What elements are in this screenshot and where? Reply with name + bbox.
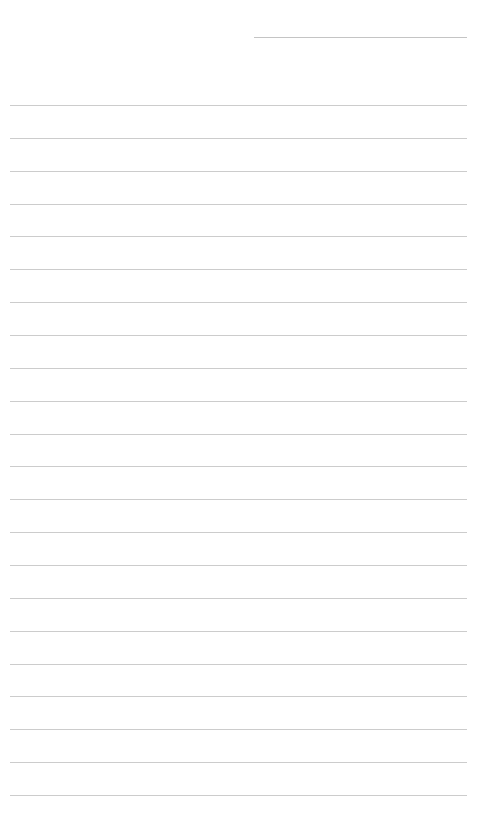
- ruled-line: [10, 171, 467, 172]
- ruled-line: [10, 335, 467, 336]
- ruled-line: [10, 565, 467, 566]
- header-date-line: [254, 37, 467, 38]
- ruled-line: [10, 204, 467, 205]
- ruled-line: [10, 729, 467, 730]
- ruled-line: [10, 631, 467, 632]
- ruled-line: [10, 598, 467, 599]
- ruled-line: [10, 795, 467, 796]
- ruled-line: [10, 762, 467, 763]
- ruled-line: [10, 302, 467, 303]
- ruled-line: [10, 105, 467, 106]
- ruled-line: [10, 466, 467, 467]
- ruled-line: [10, 236, 467, 237]
- ruled-line: [10, 696, 467, 697]
- ruled-line: [10, 664, 467, 665]
- ruled-line: [10, 434, 467, 435]
- lined-paper-page: [0, 0, 494, 819]
- ruled-line: [10, 532, 467, 533]
- ruled-line: [10, 269, 467, 270]
- ruled-line: [10, 368, 467, 369]
- ruled-line: [10, 138, 467, 139]
- ruled-line: [10, 499, 467, 500]
- ruled-line: [10, 401, 467, 402]
